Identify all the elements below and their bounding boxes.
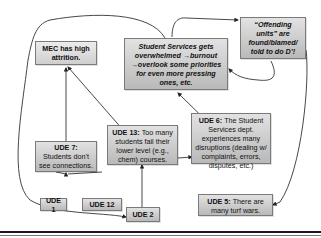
edge-ude1-to-ude7 [56, 172, 66, 174]
edge-offending-to-ude5 [273, 50, 307, 205]
edge-ude13-to-ude6 [178, 157, 192, 158]
edge-ude12-to-ude7 [68, 172, 102, 174]
bottom-rule [0, 231, 321, 233]
node-ude7: UDE 7: Students don’t see connections. [35, 141, 97, 172]
node-label: UDE 2 [132, 210, 153, 219]
node-text: MEC has high attrition. [38, 44, 94, 62]
node-ude13: UDE 13: Too many students fail their low… [107, 125, 178, 165]
edge-offending-to-student-services [229, 61, 274, 80]
node-ude6: UDE 6: The Student Services dept. experi… [191, 113, 271, 164]
node-label: UDE 12 [89, 200, 114, 209]
node-text: Student Services gets overwhelmed →burno… [127, 42, 225, 87]
node-text: Students don’t see connections. [38, 152, 94, 170]
node-label: UDE 5: [207, 197, 231, 206]
edge-student-services-to-offending [172, 18, 238, 37]
node-label: UDE 1 [43, 196, 64, 214]
node-offending-units: “Offending units” are found/blamed/ told… [240, 17, 306, 59]
node-ude12: UDE 12 [82, 198, 122, 211]
node-mec-attrition: MEC has high attrition. [35, 41, 97, 65]
node-ude5: UDE 5: There are many turf wars. [198, 194, 273, 216]
node-text: “Offending units” are found/blamed/ told… [243, 20, 303, 56]
node-label: UDE 13: [112, 128, 140, 137]
node-label: UDE 7: [54, 143, 78, 152]
node-label: UDE 6: [199, 116, 223, 125]
node-ude1: UDE 1 [40, 198, 67, 211]
node-ude2: UDE 2 [126, 207, 160, 222]
node-student-services: Student Services gets overwhelmed →burno… [124, 38, 228, 90]
bottom-rule-thin [0, 235, 321, 236]
